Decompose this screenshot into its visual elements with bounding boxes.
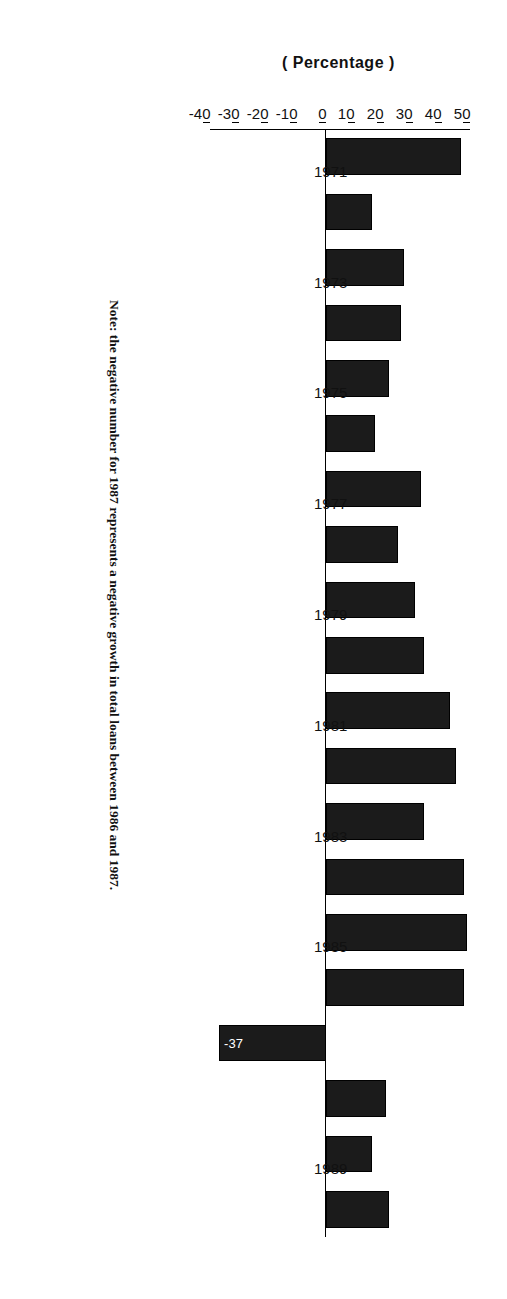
value-axis-tick <box>204 122 211 123</box>
value-axis-tick <box>435 122 442 123</box>
value-axis-tick <box>377 122 384 123</box>
category-axis-label: 1985 <box>314 938 347 955</box>
bar <box>326 415 375 452</box>
category-axis-label: 1977 <box>314 495 347 512</box>
category-axis-tick <box>325 153 326 160</box>
value-axis-tick <box>290 122 297 123</box>
category-axis-tick <box>325 486 326 493</box>
chart-note: Note: the negative number for 1987 repre… <box>106 300 122 890</box>
value-axis-label: -40 <box>151 105 211 122</box>
value-axis-tick <box>261 122 268 123</box>
bar <box>326 859 465 896</box>
category-axis-label: 1979 <box>314 606 347 623</box>
value-axis-line <box>210 129 470 130</box>
category-axis-tick <box>325 1040 326 1047</box>
category-axis-tick <box>325 929 326 936</box>
category-axis-tick <box>325 1150 326 1157</box>
category-axis-tick <box>325 707 326 714</box>
category-axis-label: 1971 <box>314 163 347 180</box>
bar <box>326 305 401 342</box>
bar <box>326 969 465 1006</box>
value-axis-tick <box>348 122 355 123</box>
category-axis-label: 1989 <box>314 1160 347 1177</box>
value-axis-tick <box>406 122 413 123</box>
value-axis-tick <box>464 122 471 123</box>
category-axis-tick <box>325 264 326 271</box>
category-axis-label: 1975 <box>314 384 347 401</box>
category-axis-label: 1981 <box>314 717 347 734</box>
bar-value-label: -37 <box>213 1036 253 1051</box>
category-axis-label: 1973 <box>314 274 347 291</box>
bar <box>326 1191 390 1228</box>
rotated-figure-wrapper: ( Percentage ) Note: the negative number… <box>0 0 507 1299</box>
category-axis-label: 1983 <box>314 828 347 845</box>
bar <box>326 637 424 674</box>
bar <box>326 526 398 563</box>
bar-chart-figure: ( Percentage ) Note: the negative number… <box>0 0 507 1299</box>
plot-area: 50403020100-10-20-30-4019711973197519771… <box>210 129 470 1237</box>
y-axis-title: ( Percentage ) <box>282 54 372 72</box>
category-axis-tick <box>325 375 326 382</box>
zero-baseline <box>325 129 326 1237</box>
category-axis-tick <box>325 596 326 603</box>
bar <box>326 194 372 231</box>
value-axis-tick <box>319 122 326 123</box>
bar <box>326 1080 387 1117</box>
category-axis-tick <box>325 818 326 825</box>
value-axis-tick <box>232 122 239 123</box>
bar <box>326 748 456 785</box>
